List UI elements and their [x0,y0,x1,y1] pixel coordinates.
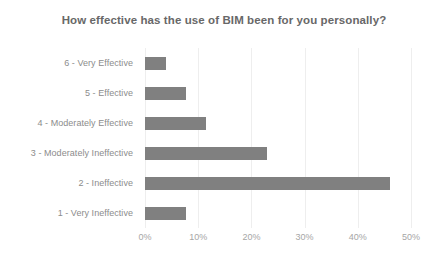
y-axis-label-row: 6 - Very Effective [0,48,139,78]
bar-row [145,48,411,78]
bar [145,87,186,100]
y-axis-label: 3 - Moderately Ineffective [31,148,133,158]
x-axis-tick-label: 0% [138,232,151,242]
bar-row [145,78,411,108]
chart-title: How effective has the use of BIM been fo… [0,14,448,26]
x-axis-tick-label: 30% [296,232,314,242]
bar [145,147,267,160]
y-axis-label-row: 2 - Ineffective [0,168,139,198]
y-axis-label: 1 - Very Ineffective [58,208,133,218]
bar-row [145,108,411,138]
y-axis-label-row: 4 - Moderately Effective [0,108,139,138]
x-axis-tick-label: 50% [402,232,420,242]
y-axis-label: 2 - Ineffective [78,178,133,188]
y-axis-label: 5 - Effective [85,88,133,98]
x-axis-tick-label: 20% [242,232,260,242]
bar [145,177,390,190]
y-axis-label: 4 - Moderately Effective [37,118,133,128]
y-axis-label-row: 1 - Very Ineffective [0,198,139,228]
bar [145,207,186,220]
x-axis-tick-label: 10% [189,232,207,242]
x-axis-tick-label: 40% [349,232,367,242]
bar-chart: How effective has the use of BIM been fo… [0,0,448,269]
bar-row [145,138,411,168]
y-axis-label-row: 5 - Effective [0,78,139,108]
bar [145,117,206,130]
y-axis-category-labels: 6 - Very Effective5 - Effective4 - Moder… [0,48,139,228]
bar [145,57,166,70]
plot-area [145,48,411,228]
bar-series [145,48,411,228]
x-axis-tick-labels: 0%10%20%30%40%50% [145,232,411,246]
bar-row [145,198,411,228]
y-axis-label-row: 3 - Moderately Ineffective [0,138,139,168]
bar-row [145,168,411,198]
y-axis-label: 6 - Very Effective [64,58,133,68]
gridline [411,48,412,228]
